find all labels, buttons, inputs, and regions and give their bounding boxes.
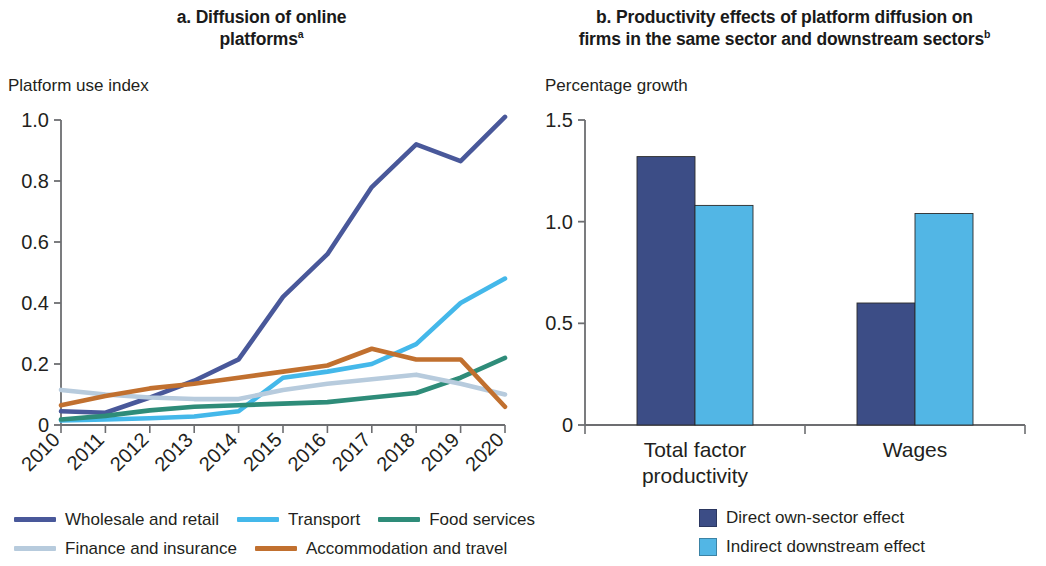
panel-b-svg: 00.51.01.5Total factorproductivityWages bbox=[523, 0, 1046, 500]
panel-a-plot-area: 00.20.40.60.81.0201020112012201320142015… bbox=[0, 0, 523, 500]
panel-a-y-tick-label: 1.0 bbox=[21, 109, 49, 131]
panel-b-y-tick-label: 1.0 bbox=[545, 211, 573, 233]
panel-a-y-tick-label: 0.8 bbox=[21, 170, 49, 192]
panel-a-legend-row-2: Finance and insurance Accommodation and … bbox=[0, 534, 523, 563]
panel-b-plot-area: 00.51.01.5Total factorproductivityWages bbox=[523, 0, 1046, 500]
legend-label-indirect: Indirect downstream effect bbox=[726, 537, 925, 557]
panel-a-x-tick-label: 2019 bbox=[416, 428, 463, 475]
legend-label-transport: Transport bbox=[288, 510, 360, 530]
panel-a-x-tick-label: 2013 bbox=[150, 428, 197, 475]
panel-b-category-label: productivity bbox=[642, 464, 749, 487]
panel-a-x-tick-label: 2015 bbox=[239, 428, 286, 475]
panel-b-category-label: Wages bbox=[883, 438, 948, 461]
legend-line-icon-wholesale bbox=[14, 517, 56, 522]
panel-b-y-tick-label: 1.5 bbox=[545, 109, 573, 131]
legend-line-icon-transport bbox=[237, 517, 279, 522]
panel-a-x-tick-label: 2017 bbox=[328, 428, 375, 475]
panel-a-x-tick-label: 2016 bbox=[283, 428, 330, 475]
panel-b-bar bbox=[857, 303, 915, 425]
panel-a-series-line bbox=[61, 117, 505, 413]
legend-label-accommodation: Accommodation and travel bbox=[306, 539, 507, 559]
panel-b-bar bbox=[637, 157, 695, 425]
panel-b-bar bbox=[695, 205, 753, 425]
panel-b-legend: Direct own-sector effect Indirect downst… bbox=[523, 503, 1046, 561]
legend-swatch-icon-direct bbox=[699, 509, 717, 527]
legend-label-finance: Finance and insurance bbox=[65, 539, 237, 559]
panel-a-x-tick-label: 2012 bbox=[106, 428, 153, 475]
panel-a-legend-row-1: Wholesale and retail Transport Food serv… bbox=[0, 505, 523, 534]
panel-a-x-tick-label: 2011 bbox=[62, 428, 108, 474]
legend-item-accommodation-and-travel: Accommodation and travel bbox=[255, 539, 507, 559]
panel-a-x-tick-label: 2018 bbox=[372, 428, 419, 475]
panel-a-x-tick-label: 2014 bbox=[194, 428, 241, 475]
panel-a-x-tick-label: 2020 bbox=[461, 428, 508, 475]
legend-line-icon-accommodation bbox=[255, 546, 297, 551]
legend-line-icon-finance bbox=[14, 546, 56, 551]
panel-a-svg: 00.20.40.60.81.0201020112012201320142015… bbox=[0, 0, 523, 500]
panel-b-y-tick-label: 0.5 bbox=[545, 312, 573, 334]
panel-b-bar bbox=[915, 214, 973, 425]
legend-line-icon-food-services bbox=[378, 517, 420, 522]
panel-a-line-chart: a. Diffusion of online platformsa Platfo… bbox=[0, 0, 523, 566]
legend-item-direct-own-sector-effect: Direct own-sector effect bbox=[699, 508, 904, 528]
legend-item-finance-and-insurance: Finance and insurance bbox=[14, 539, 237, 559]
legend-label-wholesale: Wholesale and retail bbox=[65, 510, 219, 530]
panel-b-category-label: Total factor bbox=[644, 438, 747, 461]
legend-item-transport: Transport bbox=[237, 510, 360, 530]
panel-a-y-tick-label: 0.2 bbox=[21, 353, 49, 375]
panel-a-y-tick-label: 0.4 bbox=[21, 292, 49, 314]
legend-item-food-services: Food services bbox=[378, 510, 535, 530]
panel-a-y-tick-label: 0.6 bbox=[21, 231, 49, 253]
panel-b-legend-row-2: Indirect downstream effect bbox=[523, 532, 1046, 561]
legend-swatch-icon-indirect bbox=[699, 538, 717, 556]
legend-item-wholesale-and-retail: Wholesale and retail bbox=[14, 510, 219, 530]
figure-container: a. Diffusion of online platformsa Platfo… bbox=[0, 0, 1046, 566]
panel-a-x-tick-label: 2010 bbox=[17, 428, 64, 475]
panel-b-bar-chart: b. Productivity effects of platform diff… bbox=[523, 0, 1046, 566]
legend-label-direct: Direct own-sector effect bbox=[726, 508, 904, 528]
panel-a-legend: Wholesale and retail Transport Food serv… bbox=[0, 505, 523, 563]
panel-b-legend-row-1: Direct own-sector effect bbox=[523, 503, 1046, 532]
legend-item-indirect-downstream-effect: Indirect downstream effect bbox=[699, 537, 925, 557]
legend-label-food-services: Food services bbox=[429, 510, 535, 530]
panel-b-y-tick-label: 0 bbox=[562, 414, 573, 436]
